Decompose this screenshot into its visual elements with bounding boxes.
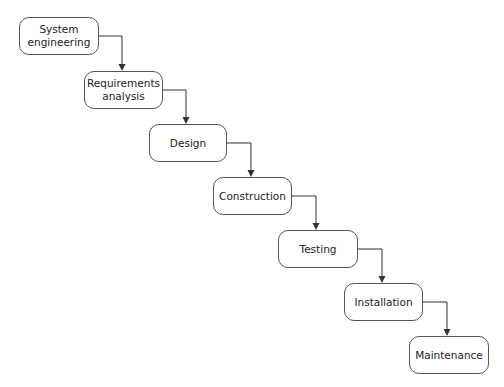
stage-testing: Testing	[278, 230, 358, 268]
stage-maintenance: Maintenance	[409, 336, 489, 374]
waterfall-diagram: System engineering Requirements analysis…	[0, 0, 504, 387]
stage-installation: Installation	[344, 283, 423, 321]
connector-arrow	[292, 196, 316, 225]
connector-arrow	[99, 36, 122, 66]
stage-requirements-analysis: Requirements analysis	[84, 71, 163, 109]
connector-arrow	[358, 249, 382, 278]
arrowhead-icon	[248, 170, 255, 177]
arrowhead-icon	[183, 117, 190, 124]
arrowhead-icon	[313, 223, 320, 230]
arrowhead-icon	[119, 64, 126, 71]
stage-system-engineering: System engineering	[19, 17, 99, 55]
arrowhead-icon	[379, 276, 386, 283]
connector-arrow	[163, 90, 186, 119]
connector-arrow	[423, 302, 447, 331]
arrowhead-icon	[444, 329, 451, 336]
stage-design: Design	[149, 124, 227, 162]
connector-arrow	[227, 143, 251, 172]
stage-construction: Construction	[213, 177, 292, 215]
